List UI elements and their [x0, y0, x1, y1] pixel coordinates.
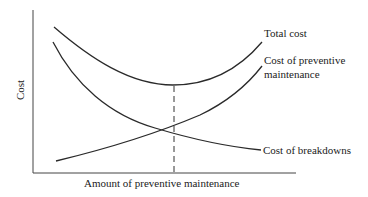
preventive-cost-label-line1: Cost of preventive [264, 54, 345, 66]
breakdown-cost-curve [53, 42, 261, 150]
x-axis-label: Amount of preventive maintenance [84, 177, 240, 189]
total-cost-label: Total cost [264, 27, 307, 39]
breakdown-cost-label: Cost of breakdowns [263, 144, 351, 156]
preventive-cost-curve [56, 66, 262, 161]
cost-chart: Total cost Cost of preventive maintenanc… [0, 0, 368, 197]
total-cost-curve [54, 27, 262, 85]
y-axis-label: Cost [14, 80, 26, 100]
preventive-cost-label-line2: maintenance [264, 68, 320, 80]
